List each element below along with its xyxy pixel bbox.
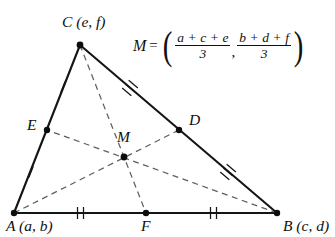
points <box>11 42 280 217</box>
point-b <box>274 210 280 216</box>
formula-close-paren: ) <box>294 30 304 61</box>
midpoint-label-f: F <box>141 218 150 234</box>
midpoint-label-e: E <box>27 117 36 133</box>
formula-open-paren: ( <box>163 30 173 61</box>
median-b-e <box>47 130 277 213</box>
tick-marks <box>29 80 236 219</box>
triangle-sides <box>14 45 277 213</box>
formula-y-numerator: b + d + f <box>237 31 291 46</box>
formula-x-denominator: 3 <box>199 46 206 61</box>
vertex-label-b: B (c, d) <box>283 218 329 234</box>
centroid-label-m: M <box>117 129 130 145</box>
formula-y-fraction: b + d + f 3 <box>236 31 292 61</box>
formula-equals: = <box>148 38 160 53</box>
vertex-label-a: A (a, b) <box>6 218 53 234</box>
centroid-formula: M = ( a + c + e 3 , b + d + f 3 ) <box>133 30 305 61</box>
point-d <box>176 127 182 133</box>
formula-lhs: M <box>133 38 148 54</box>
midpoint-label-d: D <box>189 112 200 128</box>
point-f <box>143 210 149 216</box>
formula-x-fraction: a + c + e 3 <box>174 31 231 61</box>
formula-x-numerator: a + c + e <box>175 31 230 46</box>
point-c <box>77 42 84 49</box>
formula-y-denominator: 3 <box>261 46 268 61</box>
point-e <box>44 127 50 133</box>
vertex-label-c: C (e, f) <box>62 14 105 30</box>
medians <box>14 45 277 213</box>
median-c-f <box>80 45 146 213</box>
point-a <box>11 210 17 216</box>
median-a-d <box>14 130 179 213</box>
point-m-centroid <box>121 154 128 161</box>
